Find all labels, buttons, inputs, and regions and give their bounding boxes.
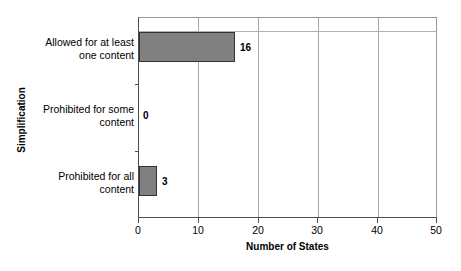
x-axis-tick-50: [436, 218, 437, 223]
category-label-line: Prohibited for all: [22, 170, 134, 183]
bar-prohibited-all-content: [139, 166, 157, 196]
category-label-allowed-at-least-one-content: Allowed for at least one content: [22, 36, 134, 62]
gridline-vertical-30: [318, 18, 319, 217]
x-axis-tick-label-0: 0: [123, 224, 153, 236]
x-axis-tick-label-10: 10: [183, 224, 213, 236]
category-label-prohibited-all-content: Prohibited for all content: [22, 170, 134, 196]
gridline-vertical-20: [258, 18, 259, 217]
x-axis-tick-label-40: 40: [362, 224, 392, 236]
category-label-line: Prohibited for some: [22, 103, 134, 116]
category-label-line: one content: [22, 49, 134, 62]
x-axis-tick-label-30: 30: [302, 224, 332, 236]
plot-area: 16 0 3: [138, 17, 437, 218]
x-axis-tick-20: [258, 218, 259, 223]
category-label-line: content: [22, 116, 134, 129]
bar-value-label-allowed-at-least-one-content: 16: [240, 42, 251, 53]
x-axis-title: Number of States: [138, 241, 437, 252]
x-axis-tick-30: [317, 218, 318, 223]
gridline-vertical-40: [378, 18, 379, 217]
category-label-group: Allowed for at least one content Prohibi…: [18, 17, 134, 218]
x-axis-tick-10: [198, 218, 199, 223]
category-label-line: Allowed for at least: [22, 36, 134, 49]
x-axis-tick-label-50: 50: [421, 224, 451, 236]
y-axis-tick: [135, 84, 139, 85]
x-axis-tick-label-20: 20: [243, 224, 273, 236]
bar-allowed-at-least-one-content: [139, 32, 235, 62]
category-label-line: content: [22, 183, 134, 196]
category-label-prohibited-some-content: Prohibited for some content: [22, 103, 134, 129]
x-axis-tick-40: [377, 218, 378, 223]
bar-chart: Simplification Allowed for at least one …: [0, 0, 461, 271]
y-axis-tick: [135, 151, 139, 152]
x-axis-tick-0: [138, 218, 139, 223]
bar-value-label-prohibited-all-content: 3: [162, 176, 168, 187]
bar-value-label-prohibited-some-content: 0: [143, 110, 149, 121]
